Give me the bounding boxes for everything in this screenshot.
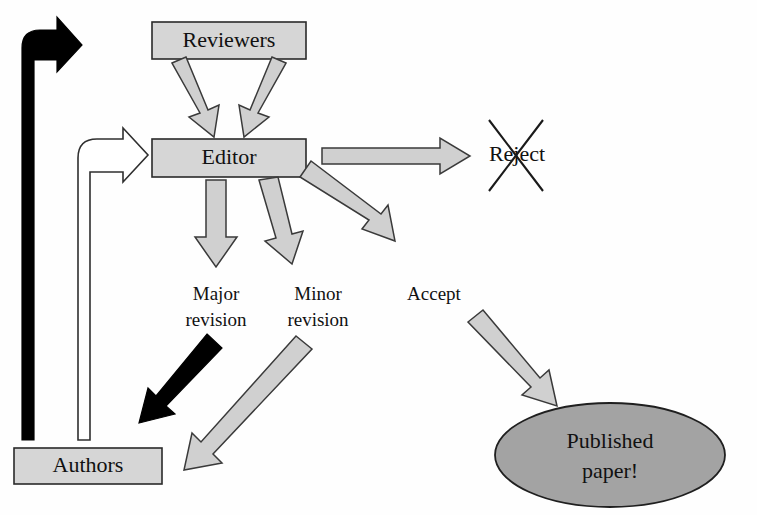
node-reviewers[interactable]: Reviewers xyxy=(152,22,306,59)
edge-editor-to-major xyxy=(195,180,237,267)
node-published-paper[interactable]: Published paper! xyxy=(495,403,725,507)
flowchart-canvas: Reviewers Editor Reject xyxy=(0,0,757,515)
edge-authors-to-editor xyxy=(78,128,148,440)
edge-accept-to-published xyxy=(468,310,557,406)
label-minor-revision: Minor revision xyxy=(287,283,349,330)
node-authors[interactable]: Authors xyxy=(14,448,162,484)
major-revision-line1: Major xyxy=(193,283,240,304)
edge-authors-to-reviewers xyxy=(22,17,82,440)
node-reject: Reject xyxy=(489,120,545,191)
accept-label: Accept xyxy=(407,283,462,304)
node-editor[interactable]: Editor xyxy=(152,139,306,177)
minor-revision-line2: revision xyxy=(287,309,349,330)
edge-reviewers-to-editor-left xyxy=(172,57,219,137)
reviewers-label: Reviewers xyxy=(183,27,276,52)
published-paper-line2: paper! xyxy=(582,458,638,483)
edge-editor-to-minor xyxy=(259,177,303,264)
edge-editor-to-reject xyxy=(322,138,470,174)
flowchart-svg: Reviewers Editor Reject xyxy=(0,0,757,515)
editor-label: Editor xyxy=(202,144,258,169)
published-paper-line1: Published xyxy=(567,428,654,453)
minor-revision-line1: Minor xyxy=(294,283,342,304)
edge-major-to-authors xyxy=(139,334,222,423)
major-revision-line2: revision xyxy=(185,309,247,330)
label-major-revision: Major revision xyxy=(185,283,247,330)
authors-label: Authors xyxy=(53,452,124,477)
label-accept: Accept xyxy=(407,283,462,304)
edge-editor-to-accept xyxy=(300,161,395,241)
edge-reviewers-to-editor-right xyxy=(239,57,286,137)
published-paper-ellipse[interactable] xyxy=(495,403,725,507)
